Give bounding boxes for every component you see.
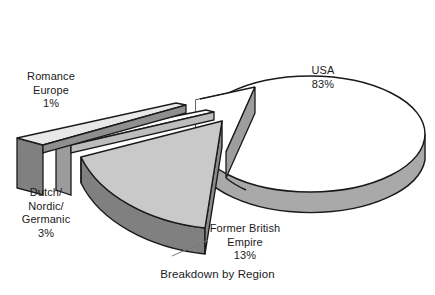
slice-label-usa-value: 83% (288, 78, 358, 92)
slice-label-romance-europe: Romance Europe 1% (8, 70, 94, 111)
slice-label-fbe-line-1: Former British (192, 222, 298, 236)
pie-slice-usa (195, 76, 425, 213)
chart-caption: Breakdown by Region (0, 268, 435, 280)
cut-off-title (0, 0, 435, 5)
slice-label-fbe-line-2: Empire (192, 236, 298, 250)
slice-label-former-british-empire: Former British Empire 13% (192, 222, 298, 263)
slice-label-dutch-line-3: Germanic (4, 213, 88, 227)
slice-label-dutch-nordic-germanic: Dutch/ Nordic/ Germanic 3% (4, 186, 88, 240)
slice-label-dutch-value: 3% (4, 227, 88, 241)
slice-label-dutch-line-2: Nordic/ (4, 200, 88, 214)
slice-label-romance-line-2: Europe (8, 84, 94, 98)
slice-label-usa: USA 83% (288, 64, 358, 91)
slice-label-romance-value: 1% (8, 97, 94, 111)
slice-label-fbe-value: 13% (192, 249, 298, 263)
slice-label-romance-line-1: Romance (8, 70, 94, 84)
slice-label-usa-name: USA (288, 64, 358, 78)
pie-chart-figure: USA 83% Romance Europe 1% Dutch/ Nordic/… (0, 0, 435, 295)
slice-label-dutch-line-1: Dutch/ (4, 186, 88, 200)
